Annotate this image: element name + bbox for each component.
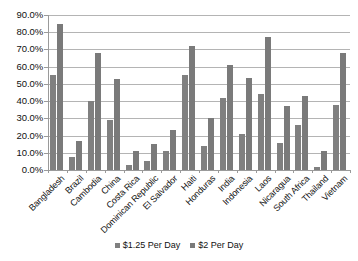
legend-entry: $2 Per Day — [190, 240, 243, 250]
bar-group — [142, 15, 161, 170]
y-axis-tick-label: 40.0% — [17, 96, 43, 106]
bar — [220, 98, 226, 170]
bar — [144, 161, 150, 170]
bar — [57, 24, 63, 170]
bar — [163, 151, 169, 170]
x-axis-category-label: Brazil — [63, 174, 85, 196]
legend-label: $2 Per Day — [198, 240, 243, 250]
x-axis-category-label: El Salvador — [142, 174, 180, 212]
x-axis-category-label: Thailand — [300, 174, 330, 204]
x-axis-category-label: Indonesia — [222, 174, 255, 207]
bar — [170, 130, 176, 170]
bar-group — [124, 15, 143, 170]
bar — [227, 65, 233, 170]
bar — [69, 157, 75, 170]
bar — [277, 143, 283, 170]
bar — [246, 78, 252, 170]
x-axis-line — [48, 170, 350, 171]
bar — [239, 134, 245, 170]
bar-group — [312, 15, 331, 170]
bars-layer — [48, 15, 350, 170]
bar — [333, 105, 339, 170]
bar — [265, 37, 271, 170]
bar-group — [218, 15, 237, 170]
y-axis-tick-label: 60.0% — [17, 62, 43, 72]
x-axis-category-label: South Africa — [272, 174, 311, 213]
bar — [284, 106, 290, 170]
y-axis-tick-label: 10.0% — [17, 148, 43, 158]
bar-group — [105, 15, 124, 170]
y-axis-tick-label: 70.0% — [17, 44, 43, 54]
bar — [76, 141, 82, 170]
bar-group — [86, 15, 105, 170]
legend-entry: $1.25 Per Day — [115, 240, 181, 250]
x-axis-category-label: Cambodia — [69, 174, 104, 209]
bar — [133, 151, 139, 170]
y-axis-tick-label: 0.0% — [22, 165, 43, 175]
bar — [95, 53, 101, 170]
bar — [126, 165, 132, 170]
chart-legend: $1.25 Per Day$2 Per Day — [0, 240, 358, 250]
bar — [88, 101, 94, 170]
y-axis-tick-label: 50.0% — [17, 79, 43, 89]
x-axis-tick — [350, 170, 351, 173]
x-axis-category-label: Honduras — [184, 174, 217, 207]
poverty-rate-bar-chart: 90.0%80.0%70.0%60.0%50.0%40.0%30.0%20.0%… — [0, 0, 358, 261]
bar — [182, 75, 188, 170]
x-axis-category-label: Haiti — [180, 174, 199, 193]
bar-group — [275, 15, 294, 170]
bar — [107, 120, 113, 170]
bar — [50, 75, 56, 170]
bar-group — [256, 15, 275, 170]
bar — [258, 94, 264, 170]
x-axis-category-label: Dominican Republic — [99, 174, 160, 235]
legend-label: $1.25 Per Day — [123, 240, 181, 250]
x-axis-category-label: India — [216, 174, 236, 194]
bar — [295, 125, 301, 170]
bar — [151, 144, 157, 170]
y-axis-labels: 90.0%80.0%70.0%60.0%50.0%40.0%30.0%20.0%… — [0, 0, 46, 261]
bar-group — [48, 15, 67, 170]
bar-group — [67, 15, 86, 170]
y-axis-tick-label: 90.0% — [17, 10, 43, 20]
x-axis-category-label: Nicaragua — [258, 174, 292, 208]
bar-group — [180, 15, 199, 170]
x-axis-category-label: China — [100, 174, 122, 196]
bar — [201, 146, 207, 170]
bar-group — [293, 15, 312, 170]
y-axis-tick-label: 20.0% — [17, 131, 43, 141]
y-axis-tick-label: 80.0% — [17, 27, 43, 37]
bar — [302, 96, 308, 170]
bar-group — [161, 15, 180, 170]
x-axis-category-label: Costa Rica — [105, 174, 141, 210]
legend-swatch-icon — [190, 243, 195, 248]
bar — [114, 79, 120, 170]
bar-group — [199, 15, 218, 170]
y-axis-tick-label: 30.0% — [17, 113, 43, 123]
bar-group — [237, 15, 256, 170]
legend-swatch-icon — [115, 243, 120, 248]
bar — [340, 53, 346, 170]
x-axis-category-label: Vietnam — [320, 174, 349, 203]
bar-group — [331, 15, 350, 170]
x-axis-category-label: Laos — [254, 174, 274, 194]
bar — [189, 46, 195, 170]
bar — [208, 118, 214, 170]
bar — [314, 167, 320, 170]
bar — [321, 151, 327, 170]
